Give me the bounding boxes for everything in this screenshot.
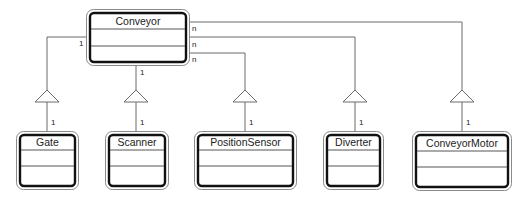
multiplicity-scanner: 1 bbox=[140, 118, 145, 127]
multiplicity-positionsensor: 1 bbox=[249, 118, 254, 127]
class-name-conveyor: Conveyor bbox=[116, 15, 161, 27]
class-name-gate: Gate bbox=[36, 136, 59, 148]
class-positionsensor[interactable]: PositionSensor bbox=[195, 132, 297, 190]
connector-gate bbox=[47, 37, 87, 131]
class-name-diverter: Diverter bbox=[335, 136, 372, 148]
multiplicity-conveyormotor: 1 bbox=[466, 118, 471, 127]
multiplicity-gate: 1 bbox=[51, 118, 56, 127]
class-diverter[interactable]: Diverter bbox=[324, 132, 384, 190]
generalization-triangle-positionsensor bbox=[233, 90, 257, 102]
class-conveyormotor[interactable]: ConveyorMotor bbox=[413, 132, 512, 191]
generalization-triangle-scanner bbox=[124, 90, 148, 102]
class-name-positionsensor: PositionSensor bbox=[210, 136, 281, 148]
generalization-triangle-gate bbox=[35, 90, 59, 102]
uml-diagram-canvas: Conveyor 1 1 n n n 1 1 1 1 1 Gate Scanne… bbox=[0, 0, 523, 197]
class-name-conveyormotor: ConveyorMotor bbox=[426, 137, 498, 149]
generalization-triangle-conveyormotor bbox=[450, 90, 474, 102]
generalization-triangles bbox=[35, 90, 474, 102]
multiplicity-conveyor-right-2: n bbox=[192, 40, 196, 49]
class-name-scanner: Scanner bbox=[117, 136, 157, 148]
multiplicity-conveyor-bottom: 1 bbox=[140, 68, 145, 77]
multiplicity-conveyor-left: 1 bbox=[79, 39, 84, 48]
connector-positionsensor bbox=[189, 53, 245, 131]
connector-diverter bbox=[189, 37, 355, 131]
connector-conveyormotor bbox=[189, 22, 462, 131]
class-scanner[interactable]: Scanner bbox=[106, 132, 169, 190]
class-conveyor[interactable]: Conveyor bbox=[87, 10, 190, 66]
class-gate[interactable]: Gate bbox=[17, 132, 79, 190]
multiplicity-conveyor-right-1: n bbox=[192, 24, 196, 33]
multiplicity-conveyor-right-3: n bbox=[192, 55, 196, 64]
generalization-triangle-diverter bbox=[343, 90, 367, 102]
multiplicity-diverter: 1 bbox=[359, 118, 364, 127]
